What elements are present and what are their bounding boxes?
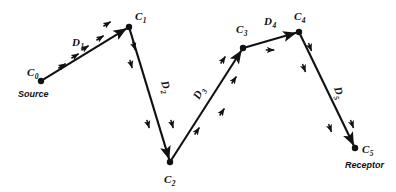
role-caption-c0: Source (18, 89, 49, 99)
path-segment-d4 (246, 33, 296, 47)
flow-direction-arrow (329, 124, 332, 132)
flow-direction-arrow (96, 36, 103, 41)
flow-direction-arrow (351, 120, 354, 128)
flow-direction-arrow (220, 108, 225, 115)
node-label-c3: C3 (236, 23, 248, 38)
node-label-c4: C4 (294, 10, 306, 25)
flow-direction-arrow (103, 22, 110, 27)
diagram-root: C0SourceC1C2C3C4C5ReceptorD1D2D3D4D5 (0, 0, 396, 192)
path-segment-d1 (44, 29, 127, 80)
diagram-canvas: C0SourceC1C2C3C4C5ReceptorD1D2D3D4D5 (0, 0, 396, 192)
flow-direction-arrow (303, 64, 306, 72)
node-dot-c4 (296, 29, 302, 35)
labels-layer: C0SourceC1C2C3C4C5ReceptorD1D2D3D4D5 (18, 10, 385, 188)
flow-direction-arrow (147, 120, 149, 128)
flow-ticks-layer (58, 22, 353, 135)
flow-direction-arrow (232, 76, 237, 83)
node-dot-c2 (167, 159, 173, 165)
flow-direction-arrow (195, 127, 200, 134)
node-dot-c0 (38, 78, 44, 84)
path-segment-d2 (130, 30, 169, 159)
flow-direction-arrow (171, 120, 173, 128)
node-label-c2: C2 (164, 173, 176, 188)
flow-direction-arrow (130, 60, 132, 68)
node-dot-c3 (240, 45, 246, 51)
node-label-c0: C0 (27, 66, 39, 81)
flow-direction-arrow (221, 56, 226, 63)
segment-label-d1: D1 (71, 36, 84, 51)
segment-label-d4: D4 (263, 15, 276, 30)
path-segment-d3 (172, 51, 242, 160)
flow-direction-arrow (309, 43, 312, 51)
node-label-c5: C5 (362, 143, 374, 158)
segment-label-d3: D3 (190, 84, 210, 103)
node-dot-c5 (352, 145, 358, 151)
role-caption-c5: Receptor (345, 160, 385, 170)
segment-label-d2: D2 (156, 78, 174, 95)
node-dot-c1 (126, 24, 132, 30)
node-label-c1: C1 (135, 10, 147, 25)
